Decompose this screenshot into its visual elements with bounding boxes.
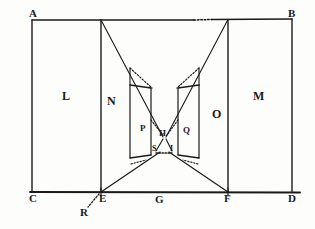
dotted-ray-right-to-H bbox=[167, 120, 178, 135]
label-baseline-G: G bbox=[155, 194, 164, 205]
label-region-L: L bbox=[62, 90, 70, 102]
label-corner-D: D bbox=[288, 193, 296, 204]
label-baseline-E: E bbox=[99, 193, 106, 204]
figure-root: A B C D E G F R L M N O P Q H S I bbox=[0, 0, 315, 229]
label-baseline-F: F bbox=[224, 193, 231, 204]
label-corner-A: A bbox=[29, 8, 37, 19]
label-corner-C: C bbox=[29, 193, 37, 204]
core-left-top-edge bbox=[130, 85, 151, 88]
frame-bottom-edge-CD bbox=[30, 192, 300, 193]
frame-top-edge-AB-dotted-gap bbox=[194, 20, 212, 21]
label-region-P: P bbox=[140, 124, 146, 133]
label-point-H: H bbox=[159, 129, 166, 138]
label-region-Q: Q bbox=[183, 126, 190, 135]
label-region-N: N bbox=[107, 95, 116, 107]
label-point-R: R bbox=[80, 207, 88, 218]
core-right-bottom-edge bbox=[178, 155, 199, 158]
edge-H-to-S bbox=[156, 139, 163, 151]
core-left-bottom-edge bbox=[130, 155, 151, 158]
frame-top-edge-AB-right bbox=[212, 19, 292, 20]
label-point-S: S bbox=[152, 145, 156, 153]
label-region-M: M bbox=[253, 90, 264, 102]
ray-top-left-to-center bbox=[101, 20, 163, 137]
dotted-line-E-to-R bbox=[88, 194, 99, 207]
label-region-O: O bbox=[212, 108, 221, 120]
label-point-I: I bbox=[170, 145, 173, 153]
label-corner-B: B bbox=[288, 8, 295, 19]
core-right-top-edge bbox=[178, 85, 199, 88]
